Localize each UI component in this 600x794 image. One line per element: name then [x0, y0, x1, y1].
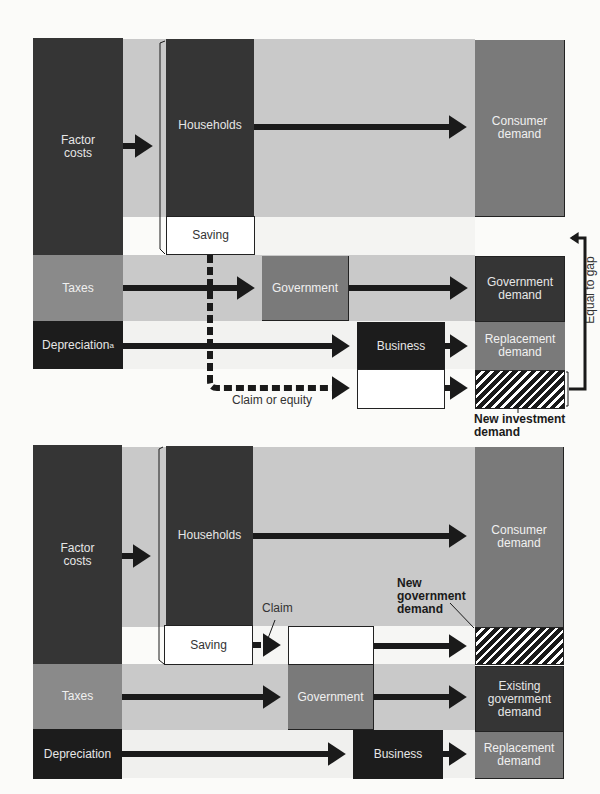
- top-income-bracket: [160, 41, 165, 254]
- bottom-income-bracket: [159, 447, 164, 664]
- bottom-claim-pointer: [267, 620, 275, 641]
- connectors-layer: [0, 0, 600, 794]
- top-dashed-claim-or-equity-arrow: [210, 255, 345, 388]
- bottom-new-gov-demand-pointer: [450, 603, 474, 628]
- top-equal-to-gap-arrow: [569, 238, 585, 389]
- top-new-investment-bracket: [566, 372, 568, 406]
